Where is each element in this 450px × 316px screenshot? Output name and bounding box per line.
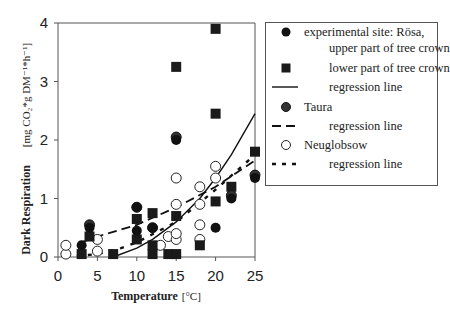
legend-symbol-icon xyxy=(272,156,302,172)
legend-item: Taura xyxy=(266,99,437,115)
open-circle-marker xyxy=(282,141,291,150)
x-tick-label: 25 xyxy=(247,267,264,284)
circle-marker xyxy=(148,223,158,233)
legend-symbol-icon xyxy=(272,40,302,56)
chart-legend: experimental site: Rösa,upper part of tr… xyxy=(265,22,438,186)
legend-item: Neuglobsow xyxy=(266,137,437,153)
legend-label: regression line xyxy=(329,156,402,172)
legend-symbol-icon xyxy=(272,24,302,40)
square-marker xyxy=(211,109,221,119)
open-circle-marker xyxy=(211,173,221,183)
y-tick-label: 3 xyxy=(40,73,48,90)
legend-symbol-icon xyxy=(272,99,302,115)
y-tick-label: 0 xyxy=(40,248,48,265)
legend-label: Taura xyxy=(304,99,332,115)
circle-marker xyxy=(132,226,142,236)
legend-item: upper part of tree crown xyxy=(266,40,437,56)
circle-marker xyxy=(77,240,87,250)
x-tick-label: 15 xyxy=(168,267,185,284)
legend-item: regression line xyxy=(266,156,437,172)
legend-label: Neuglobsow xyxy=(304,137,367,153)
legend-label: upper part of tree crown xyxy=(329,40,450,56)
legend-label: regression line xyxy=(329,118,402,134)
x-tick-label: 20 xyxy=(207,267,224,284)
open-circle-marker xyxy=(195,182,205,192)
square-marker xyxy=(148,208,158,218)
circle-marker xyxy=(250,173,260,183)
square-marker xyxy=(108,249,118,259)
open-circle-marker xyxy=(171,199,181,209)
square-marker xyxy=(211,196,221,206)
circle-marker xyxy=(211,223,221,233)
data-points xyxy=(61,24,260,259)
square-marker xyxy=(132,214,142,224)
x-tick-label: 0 xyxy=(54,267,62,284)
open-circle-marker xyxy=(195,199,205,209)
square-marker xyxy=(171,249,181,259)
y-tick-label: 2 xyxy=(40,131,48,148)
square-marker xyxy=(77,249,87,259)
open-circle-marker xyxy=(171,229,181,239)
square-marker xyxy=(250,147,260,157)
legend-symbol-icon xyxy=(272,118,302,134)
circle-marker xyxy=(132,202,142,212)
circle-marker xyxy=(171,135,181,145)
square-marker xyxy=(282,64,291,73)
legend-label: regression line xyxy=(329,79,402,95)
y-axis-title: Dark Respiration xyxy=(19,165,33,255)
open-circle-marker xyxy=(211,161,221,171)
square-marker xyxy=(85,232,95,242)
square-marker xyxy=(195,240,205,250)
legend-label: lower part of tree crown xyxy=(329,60,450,76)
y-axis-ticks: 01234 xyxy=(40,14,58,265)
circle-marker xyxy=(85,223,95,233)
circle-marker xyxy=(226,194,236,204)
open-circle-marker xyxy=(195,220,205,230)
legend-item: regression line xyxy=(266,118,437,134)
legend-label: experimental site: Rösa, xyxy=(304,24,424,40)
square-marker xyxy=(171,62,181,72)
square-marker xyxy=(148,249,158,259)
y-axis-unit: [mg CO₂*g DM⁻¹*h⁻¹] xyxy=(20,43,32,147)
open-circle-marker xyxy=(171,173,181,183)
y-tick-label: 1 xyxy=(40,190,48,207)
x-axis-title: Temperature[°C] xyxy=(111,289,201,303)
legend-item: lower part of tree crown xyxy=(266,60,437,76)
legend-symbol-icon xyxy=(272,79,302,95)
square-marker xyxy=(171,211,181,221)
x-axis-ticks: 0510152025 xyxy=(54,257,264,284)
circle-marker xyxy=(282,28,291,37)
open-circle-marker xyxy=(61,240,71,250)
legend-item: experimental site: Rösa, xyxy=(266,24,437,40)
open-circle-marker xyxy=(92,246,102,256)
y-tick-label: 4 xyxy=(40,14,48,31)
x-tick-label: 5 xyxy=(93,267,101,284)
square-marker xyxy=(148,240,158,250)
x-tick-label: 10 xyxy=(128,267,145,284)
legend-symbol-icon xyxy=(272,137,302,153)
circle-marker xyxy=(282,103,291,112)
legend-item: regression line xyxy=(266,79,437,95)
square-marker xyxy=(211,24,221,34)
legend-symbol-icon xyxy=(272,60,302,76)
square-marker xyxy=(132,234,142,244)
